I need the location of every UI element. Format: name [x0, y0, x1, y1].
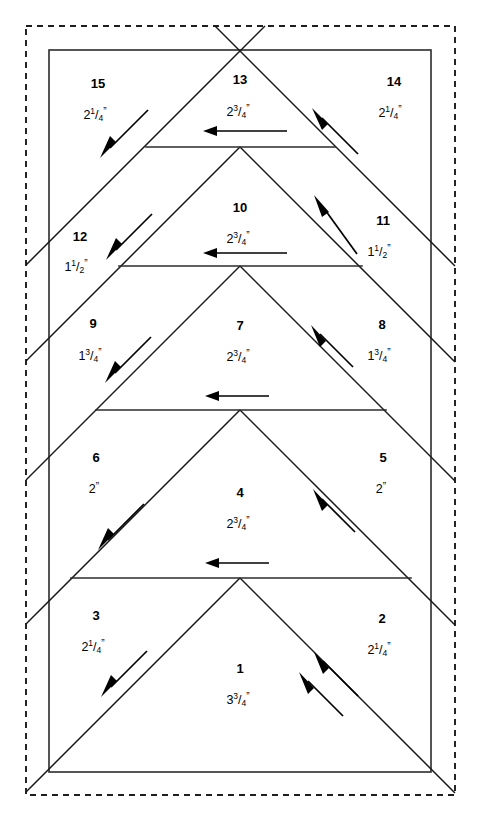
piece-number-1: 1 — [236, 661, 243, 676]
arrow-piece-9-down-left — [105, 337, 151, 383]
piece-number-10: 10 — [233, 200, 247, 215]
diagram-canvas: 15 21/4” 13 23/4” 14 21/4” 12 11/2” 10 2… — [0, 0, 480, 821]
arrow-piece-11-up-right — [314, 195, 357, 254]
piece-number-9: 9 — [89, 316, 96, 331]
piece-number-6: 6 — [92, 450, 99, 465]
arrow-piece-12-down-left — [106, 214, 152, 260]
piece-number-7: 7 — [236, 318, 243, 333]
piece-number-12: 12 — [73, 229, 87, 244]
dim-whole-10: 2 — [226, 232, 233, 246]
diagonal-left-row3 — [26, 266, 240, 480]
piece-dimension-7: 23/4” — [226, 348, 249, 366]
arrow-piece-5-up-right — [313, 489, 355, 532]
piece-number-13: 13 — [233, 72, 247, 87]
piece-dimension-6: 2” — [89, 481, 99, 497]
piece-number-8: 8 — [378, 317, 385, 332]
piece-dimension-8: 13/4” — [367, 347, 390, 365]
dim-whole-15: 2 — [83, 108, 90, 122]
piece-dimension-12: 11/2” — [64, 258, 87, 276]
piece-dimension-4: 23/4” — [226, 515, 249, 533]
dim-whole-13: 2 — [226, 105, 233, 119]
chevron-layout-svg: 15 21/4” 13 23/4” 14 21/4” 12 11/2” 10 2… — [0, 0, 480, 821]
piece-number-11: 11 — [376, 213, 390, 228]
dim-whole-6: 2 — [89, 482, 96, 496]
piece-number-4: 4 — [236, 485, 244, 500]
arrow-piece-10-left — [203, 248, 287, 258]
dim-whole-9: 1 — [78, 349, 85, 363]
dim-whole-8: 1 — [367, 349, 374, 363]
piece-dimension-5: 2” — [376, 481, 386, 497]
piece-dimension-15: 21/4” — [83, 106, 106, 124]
arrow-piece-6-down-left — [98, 504, 144, 550]
piece-number-15: 15 — [91, 76, 105, 91]
diagonal-right-row2 — [240, 147, 455, 362]
piece-dimension-14: 21/4” — [378, 104, 401, 122]
dim-whole-4: 2 — [226, 517, 233, 531]
dim-whole-14: 2 — [378, 106, 385, 120]
piece-dimension-10: 23/4” — [226, 230, 249, 248]
piece-dimension-13: 23/4” — [226, 103, 249, 121]
piece-number-14: 14 — [387, 74, 402, 89]
piece-number-5: 5 — [379, 450, 386, 465]
arrow-piece-13-left — [203, 126, 287, 136]
dim-whole-12: 1 — [64, 260, 71, 274]
diagonal-left-row5 — [26, 578, 240, 792]
dim-whole-7: 2 — [226, 350, 233, 364]
diagonal-right-row3 — [240, 266, 455, 481]
arrow-piece-8-up-right — [311, 325, 353, 367]
piece-dimension-11: 11/2” — [367, 243, 390, 261]
dim-whole-1: 3 — [226, 693, 233, 707]
piece-number-3: 3 — [92, 608, 99, 623]
arrow-piece-1-up-right-inner — [299, 672, 343, 716]
piece-number-2: 2 — [378, 611, 385, 626]
dim-whole-3: 2 — [81, 640, 88, 654]
direction-arrows — [98, 108, 358, 716]
piece-dimension-2: 21/4” — [367, 641, 390, 659]
piece-dimension-3: 21/4” — [81, 638, 104, 656]
diagonal-right-row1 — [240, 51, 455, 266]
diagonal-left-tail-row1 — [215, 26, 240, 51]
arrow-piece-4-left — [205, 558, 269, 568]
diagonal-right-row4 — [240, 410, 455, 625]
piece-dimension-9: 13/4” — [78, 347, 101, 365]
arrow-piece-3-down-left — [101, 651, 147, 697]
dim-whole-5: 2 — [376, 482, 383, 496]
diagonal-left-row4 — [26, 410, 240, 624]
dim-whole-2: 2 — [367, 643, 374, 657]
diagonal-right-tail-row1 — [240, 26, 265, 51]
piece-dimension-1: 33/4” — [226, 691, 249, 709]
dim-whole-11: 1 — [367, 245, 374, 259]
arrow-piece-7-left — [205, 391, 269, 401]
